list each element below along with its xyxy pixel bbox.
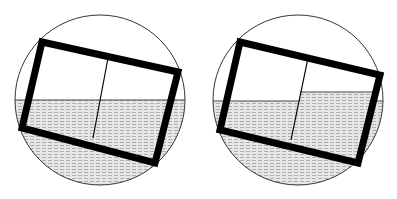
diagram-canvas (0, 0, 397, 199)
right-panel (198, 15, 397, 199)
left-panel (0, 15, 200, 199)
